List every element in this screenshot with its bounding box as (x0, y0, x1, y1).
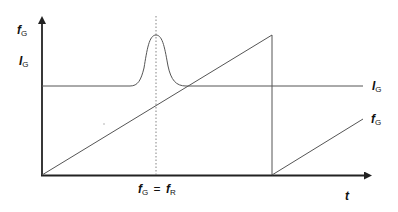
artifact-dot (103, 123, 105, 125)
x-label-time: t (345, 190, 349, 202)
curve-label-current-subscript: G (375, 85, 381, 94)
resonance-label-rhs-sub: R (170, 188, 176, 197)
y-label-current: IG (19, 55, 29, 69)
resonance-label: fG = fR (138, 183, 176, 197)
current-curve (42, 35, 363, 86)
frequency-curve (42, 35, 363, 175)
y-label-current-subscript: G (22, 60, 28, 69)
y-label-frequency: fG (17, 24, 27, 38)
x-label-time-symbol: t (345, 189, 349, 203)
resonance-label-equals: = (154, 182, 161, 196)
diagram-canvas (0, 0, 398, 212)
curve-label-frequency-subscript: G (375, 118, 381, 127)
curve-label-frequency: fG (371, 113, 381, 127)
resonance-label-lhs-sub: G (142, 188, 148, 197)
y-label-frequency-subscript: G (21, 29, 27, 38)
curve-label-current: IG (372, 80, 382, 94)
